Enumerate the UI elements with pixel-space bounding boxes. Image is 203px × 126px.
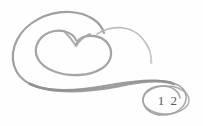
heart-loop-path (36, 31, 111, 76)
page-number-text: 1 2 (152, 92, 184, 109)
tapering-tail-path (97, 28, 151, 63)
page-ornament-figure: 1 2 (0, 0, 203, 126)
